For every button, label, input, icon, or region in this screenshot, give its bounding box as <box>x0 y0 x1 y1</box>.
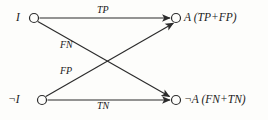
edge-label-tn: TN <box>97 101 109 111</box>
diagram-canvas: I ¬I A (TP+FP) ¬A (FN+TN) TP FN FP TN <box>0 0 268 120</box>
node-label-i: I <box>16 12 20 24</box>
node-label-not-i: ¬I <box>8 94 20 106</box>
edge-label-fn: FN <box>60 40 73 50</box>
node-label-a: A (TP+FP) <box>184 12 237 24</box>
node-not-i-circle[interactable] <box>38 96 47 105</box>
node-i-circle[interactable] <box>30 14 39 23</box>
edge-label-tp: TP <box>97 5 109 15</box>
node-not-a-circle[interactable] <box>172 96 181 105</box>
node-a-circle[interactable] <box>172 14 181 23</box>
edge-fp-line <box>46 23 174 96</box>
node-label-not-a: ¬A (FN+TN) <box>184 94 246 106</box>
edge-fn-line <box>38 22 170 97</box>
edge-label-fp: FP <box>60 66 72 76</box>
